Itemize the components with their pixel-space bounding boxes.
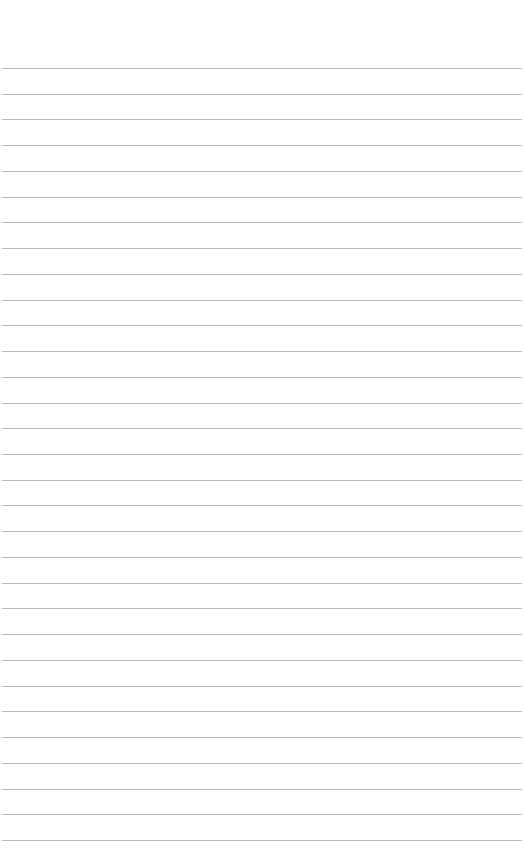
ruled-line bbox=[2, 248, 522, 249]
ruled-line bbox=[2, 222, 522, 223]
ruled-line bbox=[2, 557, 522, 558]
ruled-line bbox=[2, 660, 522, 661]
ruled-line bbox=[2, 377, 522, 378]
ruled-line bbox=[2, 454, 522, 455]
ruled-line bbox=[2, 171, 522, 172]
ruled-line bbox=[2, 428, 522, 429]
lined-paper-sheet bbox=[0, 0, 524, 864]
ruled-line bbox=[2, 789, 522, 790]
ruled-line bbox=[2, 119, 522, 120]
ruled-line bbox=[2, 737, 522, 738]
ruled-line bbox=[2, 197, 522, 198]
ruled-line bbox=[2, 583, 522, 584]
ruled-line bbox=[2, 300, 522, 301]
ruled-line bbox=[2, 505, 522, 506]
ruled-line bbox=[2, 686, 522, 687]
ruled-line bbox=[2, 145, 522, 146]
ruled-line bbox=[2, 840, 522, 841]
ruled-line bbox=[2, 531, 522, 532]
ruled-line bbox=[2, 274, 522, 275]
ruled-line bbox=[2, 68, 522, 69]
ruled-line bbox=[2, 351, 522, 352]
ruled-line bbox=[2, 403, 522, 404]
ruled-line bbox=[2, 480, 522, 481]
ruled-line bbox=[2, 608, 522, 609]
ruled-line bbox=[2, 814, 522, 815]
ruled-line bbox=[2, 325, 522, 326]
ruled-line bbox=[2, 94, 522, 95]
ruled-line bbox=[2, 634, 522, 635]
ruled-line bbox=[2, 711, 522, 712]
ruled-line bbox=[2, 763, 522, 764]
